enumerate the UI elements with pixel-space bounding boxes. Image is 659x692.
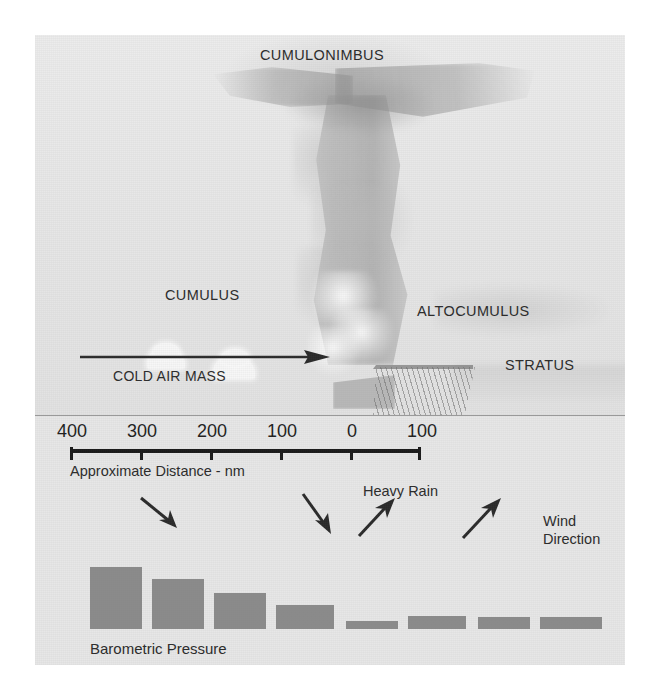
pressure-bar <box>478 617 530 629</box>
wind-arrow-group <box>35 490 625 550</box>
weather-cross-section-figure: CUMULONIMBUS CUMULUS ALTOCUMULUS STRATUS… <box>35 35 625 665</box>
label-wind-direction-line2: Direction <box>543 531 600 547</box>
pressure-bar <box>152 579 204 629</box>
scale-tick-1 <box>140 449 143 460</box>
wind-arrow-2-icon <box>303 494 331 534</box>
label-altocumulus: ALTOCUMULUS <box>417 303 530 319</box>
scale-caption: Approximate Distance - nm <box>70 463 245 479</box>
label-cumulus: CUMULUS <box>165 287 240 303</box>
pressure-bar <box>346 621 398 629</box>
scale-tick-3 <box>280 449 283 460</box>
scale-tick-label-100: 100 <box>267 421 297 442</box>
scale-axis-line <box>70 449 420 453</box>
wind-arrow-1-icon <box>141 498 177 528</box>
scale-tick-5 <box>418 447 421 460</box>
wind-arrow-4-icon <box>463 498 501 538</box>
scale-tick-4 <box>350 449 353 460</box>
label-wind-direction-line1: Wind <box>543 513 576 529</box>
pressure-bar <box>276 605 334 629</box>
pressure-bar <box>540 617 602 629</box>
distance-scale: 400 300 200 100 0 100 Approximate Distan… <box>35 421 625 483</box>
scale-tick-2 <box>210 449 213 460</box>
scale-tick-label-300: 300 <box>127 421 157 442</box>
label-cumulonimbus: CUMULONIMBUS <box>260 47 384 63</box>
label-stratus: STRATUS <box>505 357 574 373</box>
label-cold-air-mass: COLD AIR MASS <box>113 368 226 384</box>
cold-air-mass-arrow-icon <box>80 348 330 366</box>
scale-tick-label-100-right: 100 <box>407 421 437 442</box>
scale-tick-0 <box>70 447 73 460</box>
scale-tick-label-400: 400 <box>57 421 87 442</box>
scale-tick-label-200: 200 <box>197 421 227 442</box>
scale-tick-label-0: 0 <box>347 421 357 442</box>
pressure-bar <box>90 567 142 629</box>
label-heavy-rain: Heavy Rain <box>363 483 438 499</box>
label-barometric-pressure: Barometric Pressure <box>90 640 227 657</box>
pressure-bar <box>214 593 266 629</box>
precipitation-shaft-hatching <box>373 367 475 415</box>
pressure-bar <box>408 616 466 629</box>
wind-arrow-3-icon <box>359 498 395 536</box>
